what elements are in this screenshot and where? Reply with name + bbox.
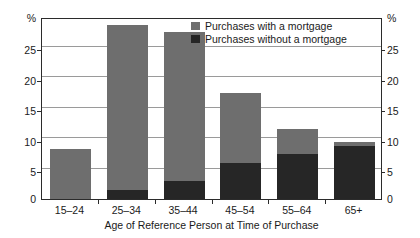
x-axis-label-65+: 65+ (325, 204, 382, 217)
bar-segment-without-mortgage (277, 154, 318, 199)
y-axis-left: % 25 20 15 10 5 0 (0, 0, 36, 238)
y-axis-right-unit: % (387, 13, 396, 24)
x-axis-label-45–54: 45–54 (212, 204, 269, 217)
gridline-10 (42, 137, 381, 138)
legend-item-without-mortgage: Purchases without a mortgage (191, 33, 347, 45)
plot-area (41, 18, 382, 200)
bar-segment-with-mortgage (107, 25, 148, 190)
y-axis-right-tick-15: 15 (387, 106, 399, 117)
y-axis-right: % 25 20 15 10 5 0 (387, 0, 420, 238)
legend: Purchases with a mortgage Purchases with… (191, 20, 347, 45)
bar-25–34 (107, 25, 148, 199)
bar-35–44 (164, 32, 205, 199)
bar-segment-without-mortgage (334, 146, 375, 199)
x-axis-label-15–24: 15–24 (41, 204, 98, 217)
bar-segment-with-mortgage (164, 32, 205, 181)
bar-segment-with-mortgage (277, 129, 318, 154)
y-axis-left-tick-5: 5 (30, 167, 36, 178)
gridline-5 (42, 168, 381, 169)
bar-segment-without-mortgage (220, 163, 261, 199)
legend-item-label: Purchases without a mortgage (205, 33, 347, 45)
bar-segment-with-mortgage (220, 93, 261, 164)
gridline-25 (42, 46, 381, 47)
y-axis-right-tick-5: 5 (387, 167, 393, 178)
legend-item-with-mortgage: Purchases with a mortgage (191, 20, 347, 32)
x-axis-title: Age of Reference Person at Time of Purch… (41, 219, 382, 232)
legend-swatch-icon (191, 22, 200, 30)
legend-item-label: Purchases with a mortgage (205, 20, 332, 32)
y-axis-left-tick-20: 20 (24, 76, 36, 87)
y-axis-right-tick-0: 0 (387, 194, 393, 205)
y-axis-left-unit: % (27, 13, 36, 24)
legend-swatch-icon (191, 35, 200, 43)
y-axis-left-tick-15: 15 (24, 106, 36, 117)
bar-45–54 (220, 92, 261, 199)
x-axis-label-35–44: 35–44 (155, 204, 212, 217)
gridline-15 (42, 107, 381, 108)
bar-segment-without-mortgage (164, 181, 205, 199)
y-axis-right-tick-25: 25 (387, 45, 399, 56)
bar-55–64 (277, 129, 318, 199)
x-axis-label-55–64: 55–64 (268, 204, 325, 217)
y-axis-left-tick-10: 10 (24, 137, 36, 148)
y-axis-right-tick-20: 20 (387, 76, 399, 87)
bar-65+ (334, 142, 375, 199)
y-axis-right-tick-10: 10 (387, 137, 399, 148)
bar-chart: % 25 20 15 10 5 0 % 25 20 15 10 5 0 Purc… (0, 0, 420, 238)
y-axis-left-tick-0: 0 (30, 194, 36, 205)
bar-segment-with-mortgage (50, 149, 91, 199)
y-axis-left-tick-25: 25 (24, 45, 36, 56)
gridline-20 (42, 76, 381, 77)
bar-segment-without-mortgage (107, 190, 148, 199)
bar-15–24 (50, 149, 91, 199)
x-axis-label-25–34: 25–34 (98, 204, 155, 217)
